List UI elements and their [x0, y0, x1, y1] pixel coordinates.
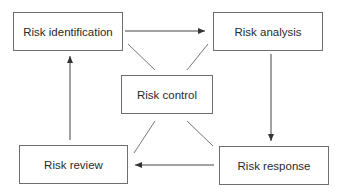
node-risk-control: Risk control	[121, 75, 213, 114]
node-label: Risk response	[238, 160, 311, 172]
node-risk-response: Risk response	[219, 146, 329, 185]
node-risk-identification: Risk identification	[13, 12, 123, 51]
node-label: Risk review	[44, 159, 103, 171]
node-risk-analysis: Risk analysis	[213, 12, 323, 51]
node-label: Risk control	[137, 89, 197, 101]
connector-control-identification	[128, 44, 155, 70]
connector-control-analysis	[187, 44, 208, 70]
node-risk-review: Risk review	[19, 145, 128, 184]
node-label: Risk analysis	[234, 26, 301, 38]
node-label: Risk identification	[23, 26, 112, 38]
connector-control-review	[134, 121, 155, 153]
connector-control-response	[187, 121, 213, 146]
